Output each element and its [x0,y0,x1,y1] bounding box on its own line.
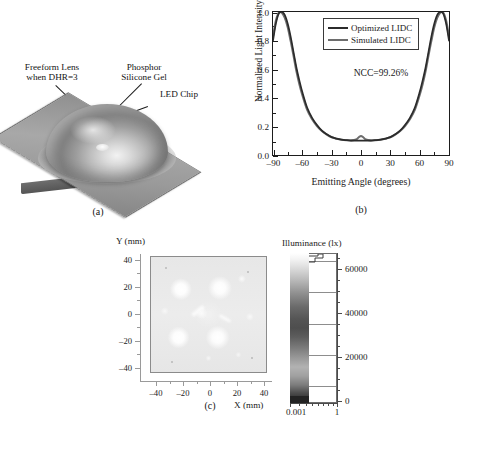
colorbar-tick-label: 20000 [345,352,368,362]
ytick-label-c: 40 [106,255,132,265]
annotation-phosphor-line1: Phosphor [104,62,184,72]
annotation-freeform-lens-line2: when DHR=3 [6,72,98,82]
xtick-label-c: –20 [177,388,190,398]
led-chip-marker [96,144,109,151]
illuminance-field [151,257,266,372]
colorbar-histogram-panel [309,253,337,403]
xtick-label: 90 [444,158,453,168]
histogram-step-curve [309,254,336,402]
legend-item-simulated: Simulated LIDC [328,34,412,46]
ytick-label: 0.8 [258,36,269,46]
ytick-label: 1.0 [258,8,269,18]
panel-c-label: (c) [180,400,240,411]
ytick-label-c: 20 [106,282,132,292]
lens-assembly-render [8,96,198,214]
panel-a-label: (a) [68,206,128,217]
annotation-phosphor-line2: Silicone Gel [104,72,184,82]
ytick-label: 0.6 [258,65,269,75]
illuminance-map [150,256,267,373]
colorbar-tick-label: 60000 [345,264,368,274]
panel-b-y-axis-label: Normalized Light Intensity [254,0,264,126]
lidc-plot-area: 0.0 0.2 0.4 0.6 0.8 1.0 –90 –60 –30 [272,11,450,156]
panel-c-y-axis-line [140,254,141,382]
panel-b-label: (b) [331,204,391,215]
colorbar-gradient [290,253,309,403]
colorbar-bottom-label-min: 0.001 [286,407,306,417]
xtick-label: –60 [295,158,309,168]
xtick-label: 0 [359,158,364,168]
xtick-label-c: 20 [233,388,242,398]
xtick-label: –90 [267,158,281,168]
lens-specular-highlight [70,116,116,144]
xtick-label: 30 [386,158,395,168]
ytick-label: 0.4 [258,93,269,103]
colorbar-tick-label: 0 [345,396,350,406]
ytick-label: 0.2 [258,122,269,132]
panel-c-x-axis-line [140,381,272,382]
annotation-phosphor-silicone-gel: Phosphor Silicone Gel [104,62,184,82]
colorbar-bottom-axis [290,403,338,404]
legend-swatch-optimized [328,27,348,29]
ytick-label-c: –20 [104,336,132,346]
xtick-label: 60 [415,158,424,168]
annotation-freeform-lens-line1: Freeform Lens [6,62,98,72]
illuminance-speck [165,267,167,269]
xtick-label-c: 0 [208,388,212,398]
colorbar-axis [337,253,338,403]
xtick-label: –30 [325,158,339,168]
ytick-label-c: 0 [106,309,132,319]
legend-b: Optimized LIDC Simulated LIDC [323,18,419,50]
xtick-label-c: –40 [150,388,163,398]
illuminance-speck [171,361,173,363]
panel-c-y-axis-label: Y (mm) [116,236,145,246]
figure-container: Freeform Lens when DHR=3 Phosphor Silico… [0,0,478,450]
legend-label-optimized: Optimized LIDC [351,23,412,33]
colorbar-tick-label: 40000 [345,308,368,318]
panel-b-x-axis-label: Emitting Angle (degrees) [272,176,450,187]
ytick-label-c: –40 [104,363,132,373]
panel-b: Normalized Light Intensity 0.0 0.2 0.4 0… [232,0,478,225]
legend-label-simulated: Simulated LIDC [351,35,411,45]
panel-c: Y (mm) 40 20 0 –20 –40 –40 –20 [104,232,434,450]
annotation-freeform-lens: Freeform Lens when DHR=3 [6,62,98,82]
panel-a: Freeform Lens when DHR=3 Phosphor Silico… [0,0,232,225]
illuminance-speck [247,271,249,273]
xtick-label-c: 40 [260,388,269,398]
legend-swatch-simulated [328,39,348,41]
colorbar-dark-cap [290,396,309,403]
colorbar-bottom-label-max: 1 [335,407,340,417]
illuminance-speck [251,357,253,359]
colorbar-title: Illuminance (lx) [282,238,341,248]
ncc-annotation: NCC=99.26% [321,67,441,78]
legend-item-optimized: Optimized LIDC [328,22,412,34]
